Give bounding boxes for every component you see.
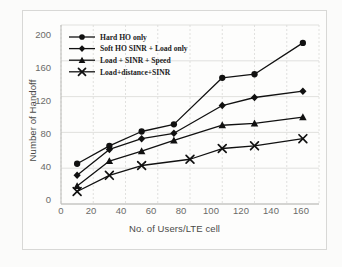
legend-label: Load + SINR + Speed (100, 56, 171, 65)
legend-item: Load + SINR + Speed (69, 56, 171, 65)
chart-legend: Hard HO onlySoft HO SINR + Load onlyLoad… (69, 33, 188, 77)
legend-label: Soft HO SINR + Load only (100, 44, 188, 53)
legend-item: Load+distance+SINR (69, 68, 171, 77)
scanned-figure-page: Number of Handoff No. of Users/LTE cell … (0, 0, 342, 267)
legend-item: Hard HO only (69, 33, 147, 42)
chart-figure: Number of Handoff No. of Users/LTE cell … (22, 10, 327, 250)
legend-item: Soft HO SINR + Load only (69, 44, 188, 53)
legend-label: Load+distance+SINR (100, 68, 171, 77)
plot-canvas: Hard HO onlySoft HO SINR + Load onlyLoad… (23, 11, 328, 251)
legend-label: Hard HO only (100, 33, 147, 42)
